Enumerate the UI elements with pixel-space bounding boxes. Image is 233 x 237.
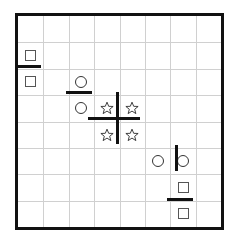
grid-line-horizontal xyxy=(18,42,221,43)
bar-center-horizontal[interactable] xyxy=(88,117,140,120)
cell-circle-r5c5[interactable] xyxy=(145,148,170,174)
cell-square-r7c6[interactable] xyxy=(170,201,195,227)
circle-icon xyxy=(75,76,87,88)
star-icon xyxy=(100,101,114,115)
bar-center-vertical[interactable] xyxy=(116,92,119,144)
grid-line-horizontal xyxy=(18,69,221,70)
square-icon xyxy=(178,208,189,219)
star-icon xyxy=(125,128,139,142)
circle-icon xyxy=(152,155,164,167)
bar-upper-middle-horizontal[interactable] xyxy=(66,91,92,94)
puzzle-board[interactable] xyxy=(15,13,224,230)
puzzle-root xyxy=(0,0,233,237)
star-icon xyxy=(100,128,114,142)
square-icon xyxy=(178,182,189,193)
square-icon xyxy=(25,50,36,61)
bar-top-left-horizontal[interactable] xyxy=(15,65,41,68)
cell-square-r6c6[interactable] xyxy=(170,174,195,200)
star-icon xyxy=(125,101,139,115)
bar-lower-right-vertical[interactable] xyxy=(175,145,178,171)
cell-square-r2c0[interactable] xyxy=(18,69,43,95)
bar-bottom-right-horizontal[interactable] xyxy=(167,198,193,201)
square-icon xyxy=(25,76,36,87)
cell-star-r4c4[interactable] xyxy=(120,122,145,148)
circle-icon xyxy=(177,155,189,167)
circle-icon xyxy=(75,102,87,114)
